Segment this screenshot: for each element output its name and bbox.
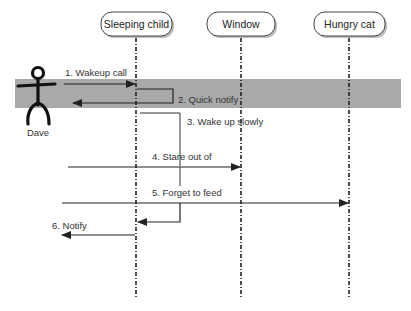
header-box-hungry-cat: Hungry cat <box>314 12 387 38</box>
message-3-label: 3. Wake up slowly <box>187 116 263 127</box>
actor-label-dave: Dave <box>27 127 49 138</box>
message-1-label: 1. Wakeup call <box>65 67 127 78</box>
header-label-window: Window <box>222 18 260 30</box>
message-2-label: 2. Quick notify <box>178 94 238 105</box>
message-5: 5. Forget to feed <box>62 187 348 222</box>
message-4: 4. Stare out of <box>68 151 240 186</box>
message-5-label: 5. Forget to feed <box>152 187 222 198</box>
sequence-diagram: Sleeping child Window Hungry cat Dave 1.… <box>0 0 411 311</box>
message-4-label: 4. Stare out of <box>152 151 212 162</box>
message-6-label: 6. Notify <box>52 220 87 231</box>
header-box-window: Window <box>207 12 277 38</box>
header-box-sleeping-child: Sleeping child <box>101 12 174 38</box>
header-label-sleeping-child: Sleeping child <box>104 18 170 30</box>
message-6: 6. Notify <box>52 220 135 235</box>
header-label-hungry-cat: Hungry cat <box>324 18 375 30</box>
